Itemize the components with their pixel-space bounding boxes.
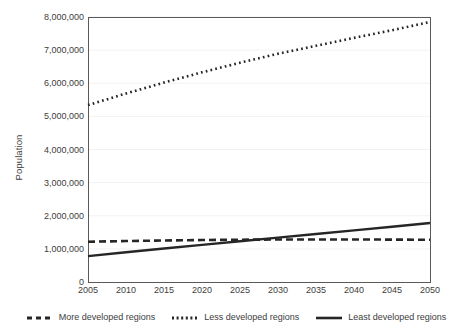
population-projection-chart: Population 01,000,0002,000,0003,000,0004… xyxy=(0,0,472,335)
chart-legend: More developed regionsLess developed reg… xyxy=(0,306,472,328)
legend-swatch-dotted-icon xyxy=(171,313,199,322)
legend-item[interactable]: Least developed regions xyxy=(315,312,446,322)
legend-item[interactable]: Less developed regions xyxy=(171,312,299,322)
x-axis-tick-labels: 2005201020152020202520302035204020452050 xyxy=(0,285,472,301)
legend-label: More developed regions xyxy=(59,312,156,322)
legend-label: Least developed regions xyxy=(348,312,446,322)
legend-item[interactable]: More developed regions xyxy=(26,312,156,322)
series-line-less-developed-regions xyxy=(88,22,430,105)
legend-label: Less developed regions xyxy=(204,312,299,322)
x-axis-tick-label: 2050 xyxy=(408,285,452,295)
legend-swatch-dashed-icon xyxy=(26,313,54,322)
legend-swatch-solid-icon xyxy=(315,313,343,322)
